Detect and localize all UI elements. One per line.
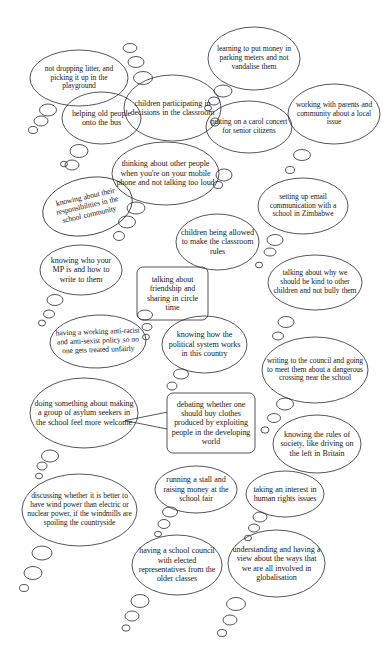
bubble-text-knowing-responsibilities-school-community: knowing about their responsibilities in … bbox=[40, 183, 135, 229]
thought-tail-circle-48 bbox=[131, 595, 149, 608]
bubble-working-with-parents-community: working with parents and community about… bbox=[288, 84, 380, 144]
thought-tail-circle-14 bbox=[286, 167, 295, 174]
thought-tail-circle-51 bbox=[227, 598, 246, 611]
thought-tail-circle-5 bbox=[29, 127, 38, 134]
thought-tail-circle-47 bbox=[20, 585, 29, 592]
bubble-talking-why-be-kind: talking about why we should be kind to o… bbox=[268, 255, 362, 310]
thought-tail-circle-46 bbox=[24, 567, 42, 580]
bubble-text-knowing-who-your-mp-is: knowing who your MP is and how to write … bbox=[40, 256, 122, 284]
bubble-running-a-stall-school-fair: running a stall and raising money at the… bbox=[155, 466, 237, 513]
bubble-learning-parking-meters: learning to put money in parking meters … bbox=[208, 27, 300, 90]
bubble-text-children-allowed-classroom-rules: children being allowed to make the class… bbox=[176, 228, 259, 256]
bubble-text-setting-up-email-zimbabwe: setting up email communication with a sc… bbox=[258, 193, 348, 219]
thought-tail-circle-13 bbox=[294, 150, 311, 161]
bubble-knowing-rules-of-society: knowing the rules of society, like drivi… bbox=[273, 415, 361, 473]
bubble-text-helping-old-people-bus: helping old people onto the bus bbox=[62, 109, 141, 128]
bubble-text-talking-why-be-kind: talking about why we should be kind to o… bbox=[268, 269, 362, 295]
bubble-text-putting-on-carol-concert: putting on a carol concert for senior ci… bbox=[206, 118, 292, 136]
bubble-text-writing-to-council-crossing: writing to the council and going to meet… bbox=[262, 357, 368, 383]
bubble-anti-racist-anti-sexist-policy: having a working anti-racist and anti-se… bbox=[49, 313, 147, 369]
thought-tail-circle-23 bbox=[47, 295, 63, 306]
thought-tail-circle-19 bbox=[114, 232, 125, 241]
bubble-text-knowing-rules-of-society: knowing the rules of society, like drivi… bbox=[273, 430, 361, 458]
bubble-debating-buying-clothes: debating whether one should buy clothes … bbox=[167, 393, 255, 453]
bubble-children-allowed-classroom-rules: children being allowed to make the class… bbox=[176, 214, 259, 270]
thought-tail-circle-40 bbox=[158, 520, 170, 529]
bubble-talking-about-friendship-circle-time: talking about friendship and sharing in … bbox=[137, 267, 208, 320]
bubble-setting-up-email-zimbabwe: setting up email communication with a sc… bbox=[258, 178, 348, 234]
thought-tail-circle-4 bbox=[34, 116, 48, 126]
thought-tail-circle-35 bbox=[261, 427, 269, 433]
diagram-canvas: not dropping litter, and picking it up i… bbox=[0, 0, 388, 669]
bubble-asylum-seekers-welcome: doing something about making a group of … bbox=[30, 378, 138, 448]
thought-tail-circle-37 bbox=[37, 462, 47, 470]
bubble-text-debating-buying-clothes: debating whether one should buy clothes … bbox=[167, 400, 255, 447]
thought-tail-circle-52 bbox=[223, 615, 237, 625]
thought-tail-circle-20 bbox=[267, 235, 283, 246]
bubble-knowing-who-your-mp-is: knowing who your MP is and how to write … bbox=[40, 245, 122, 295]
bubble-text-wind-power-countryside: discussing whether it is better to have … bbox=[22, 492, 137, 527]
bubble-text-working-with-parents-community: working with parents and community about… bbox=[288, 101, 380, 127]
bubble-text-knowing-political-system: knowing how the political system works i… bbox=[162, 330, 247, 358]
thought-tail-circle-26 bbox=[278, 317, 294, 328]
bubble-understanding-globalisation: understanding and having a view about th… bbox=[228, 530, 325, 597]
bubble-text-understanding-globalisation: understanding and having a view about th… bbox=[228, 545, 325, 583]
bubble-text-anti-racist-anti-sexist-policy: having a working anti-racist and anti-se… bbox=[50, 327, 147, 357]
thought-tail-circle-12 bbox=[61, 161, 68, 167]
bubble-text-asylum-seekers-welcome: doing something about making a group of … bbox=[30, 399, 138, 427]
bubble-text-talking-about-friendship-circle-time: talking about friendship and sharing in … bbox=[137, 275, 208, 313]
thought-tail-circle-45 bbox=[32, 546, 52, 560]
bubble-wind-power-countryside: discussing whether it is better to have … bbox=[22, 474, 137, 546]
thought-tail-circle-53 bbox=[218, 630, 227, 637]
bubble-school-council-elected-reps: having a school council with elected rep… bbox=[132, 535, 222, 595]
bubble-text-not-dropping-litter: not dropping litter, and picking it up i… bbox=[30, 65, 128, 91]
bubble-text-learning-parking-meters: learning to put money in parking meters … bbox=[208, 45, 300, 71]
bubble-helping-old-people-bus: helping old people onto the bus bbox=[62, 92, 141, 144]
thought-tail-circle-1 bbox=[128, 57, 144, 68]
thought-tail-circle-49 bbox=[125, 611, 139, 621]
bubble-text-running-a-stall-school-fair: running a stall and raising money at the… bbox=[155, 475, 237, 503]
bubble-text-taking-interest-human-rights: taking an interest in human rights issue… bbox=[246, 485, 324, 504]
bubble-knowing-political-system: knowing how the political system works i… bbox=[162, 316, 247, 373]
thought-tail-circle-36 bbox=[42, 450, 59, 462]
bubble-taking-interest-human-rights: taking an interest in human rights issue… bbox=[246, 471, 324, 517]
thought-tail-circle-50 bbox=[122, 625, 130, 631]
thought-tail-circle-32 bbox=[167, 382, 177, 390]
bubble-writing-to-council-crossing: writing to the council and going to meet… bbox=[262, 337, 368, 403]
thought-tail-circle-10 bbox=[70, 145, 88, 158]
bubble-text-school-council-elected-reps: having a school council with elected rep… bbox=[132, 546, 222, 584]
thought-tail-circle-25 bbox=[39, 320, 46, 326]
